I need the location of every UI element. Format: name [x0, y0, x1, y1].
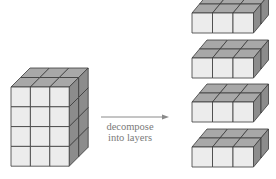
front-face-cell: [11, 87, 30, 107]
decomposed-layers: [192, 0, 269, 167]
arrow-label-into-layers: into layers: [90, 132, 170, 143]
front-face-cell: [30, 87, 49, 107]
layer-2: [192, 40, 269, 78]
front-face-cell: [233, 58, 254, 78]
front-face-cell: [192, 58, 213, 78]
arrow-label-decompose: decompose: [90, 121, 170, 132]
layer-1: [192, 0, 269, 33]
decompose-arrow: [101, 115, 169, 120]
front-face-cell: [233, 147, 254, 167]
layer-3: [192, 84, 269, 122]
arrow-head-icon: [162, 115, 169, 120]
front-face-cell: [213, 147, 234, 167]
front-face-cell: [50, 146, 69, 166]
front-face-cell: [213, 58, 234, 78]
front-face-cell: [11, 146, 30, 166]
front-face-cell: [233, 13, 254, 33]
front-face-cell: [30, 107, 49, 127]
3x2x4-block: [11, 68, 88, 166]
front-face-cell: [213, 13, 234, 33]
front-face-cell: [233, 102, 254, 122]
source-block-3x2x4: [11, 68, 88, 166]
decomposition-diagram: [0, 0, 276, 179]
front-face-cell: [192, 102, 213, 122]
front-face-cell: [11, 107, 30, 127]
front-face-cell: [11, 127, 30, 147]
front-face-cell: [50, 87, 69, 107]
side-face-cell: [261, 0, 269, 24]
layer-4: [192, 129, 269, 167]
front-face-cell: [50, 107, 69, 127]
front-face-cell: [30, 146, 49, 166]
front-face-cell: [213, 102, 234, 122]
front-face-cell: [30, 127, 49, 147]
front-face-cell: [192, 147, 213, 167]
front-face-cell: [50, 127, 69, 147]
front-face-cell: [192, 13, 213, 33]
